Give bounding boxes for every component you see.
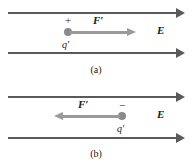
field-line-arrowhead-icon bbox=[176, 48, 185, 58]
force-arrow-head-icon bbox=[127, 28, 136, 36]
field-line-top-b bbox=[8, 92, 185, 102]
field-line-shaft bbox=[8, 52, 178, 54]
force-arrow-shaft bbox=[62, 115, 120, 118]
field-label-a: E bbox=[157, 25, 164, 36]
charge-prime: ′ bbox=[122, 123, 124, 134]
field-line-shaft bbox=[8, 137, 178, 139]
force-arrow-a bbox=[70, 28, 136, 37]
panel-a: + q′ F′ E (a) bbox=[0, 0, 192, 82]
field-line-shaft bbox=[8, 96, 178, 98]
electric-field-figure: + q′ F′ E (a) − q′ bbox=[0, 0, 192, 164]
caption-a: (a) bbox=[0, 64, 192, 75]
field-line-arrowhead-icon bbox=[176, 92, 185, 102]
force-arrow-b bbox=[54, 112, 120, 121]
force-arrow-shaft bbox=[70, 31, 128, 34]
force-arrow-head-icon bbox=[54, 112, 63, 120]
force-prime: ′ bbox=[100, 14, 103, 26]
field-line-arrowhead-icon bbox=[176, 8, 185, 18]
field-line-bottom-a bbox=[8, 48, 185, 58]
field-label-b: E bbox=[157, 109, 164, 120]
caption-b: (b) bbox=[0, 148, 192, 159]
charge-sign-a: + bbox=[65, 15, 71, 26]
field-line-bottom-b bbox=[8, 133, 185, 143]
panel-b: − q′ F′ E (b) bbox=[0, 82, 192, 164]
force-prime: ′ bbox=[85, 98, 88, 110]
charge-label-a: q′ bbox=[62, 40, 69, 50]
charge-prime: ′ bbox=[67, 39, 69, 50]
force-label-b: F′ bbox=[78, 99, 88, 110]
field-line-arrowhead-icon bbox=[176, 133, 185, 143]
charge-sign-b: − bbox=[119, 100, 125, 111]
charge-label-b: q′ bbox=[117, 124, 124, 134]
force-label-a: F′ bbox=[93, 15, 103, 26]
